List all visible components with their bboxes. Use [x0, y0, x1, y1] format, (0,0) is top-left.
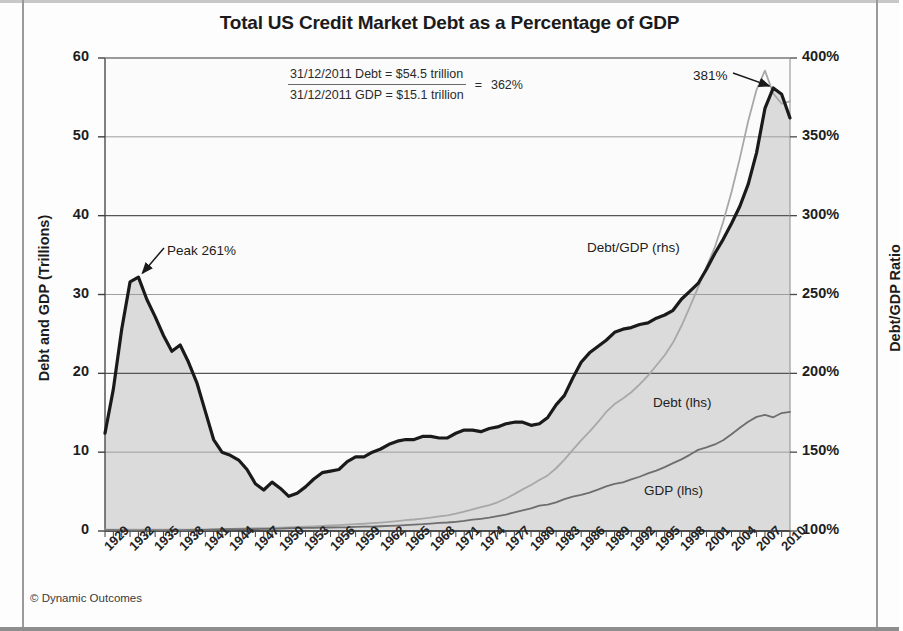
y-tick-right-200pct: 200% — [802, 363, 862, 379]
formula-annotation: 31/12/2011 Debt = $54.5 trillion 31/12/2… — [288, 66, 523, 103]
formula-numerator: 31/12/2011 Debt = $54.5 trillion — [288, 66, 466, 82]
y-axis-right-title: Debt/GDP Ratio — [887, 188, 903, 408]
y-tick-right-350pct: 350% — [802, 127, 862, 143]
formula-fraction: 31/12/2011 Debt = $54.5 trillion 31/12/2… — [288, 66, 466, 103]
formula-divider — [288, 84, 466, 85]
series-label-debt-gdp: Debt/GDP (rhs) — [587, 240, 680, 255]
y-tick-left-0: 0 — [39, 521, 89, 537]
y-tick-left-20: 20 — [39, 363, 89, 379]
series-label-debt: Debt (lhs) — [653, 395, 712, 410]
y-tick-right-400pct: 400% — [802, 48, 862, 64]
y-tick-left-60: 60 — [39, 48, 89, 64]
annotation-peak-261: Peak 261% — [167, 243, 236, 258]
y-tick-left-30: 30 — [39, 285, 89, 301]
y-tick-right-300pct: 300% — [802, 206, 862, 222]
formula-result: 362% — [491, 78, 523, 92]
y-tick-left-50: 50 — [39, 127, 89, 143]
y-tick-right-250pct: 250% — [802, 285, 862, 301]
y-tick-right-150pct: 150% — [802, 442, 862, 458]
formula-denominator: 31/12/2011 GDP = $15.1 trillion — [288, 87, 466, 103]
y-tick-left-40: 40 — [39, 206, 89, 222]
copyright-notice: © Dynamic Outcomes — [30, 592, 142, 604]
formula-equals-sign: = — [475, 78, 482, 92]
series-label-gdp: GDP (lhs) — [644, 483, 703, 498]
annotation-peak-381: 381% — [693, 68, 728, 83]
y-tick-left-10: 10 — [39, 442, 89, 458]
y-tick-right-100pct: 100% — [802, 521, 862, 537]
